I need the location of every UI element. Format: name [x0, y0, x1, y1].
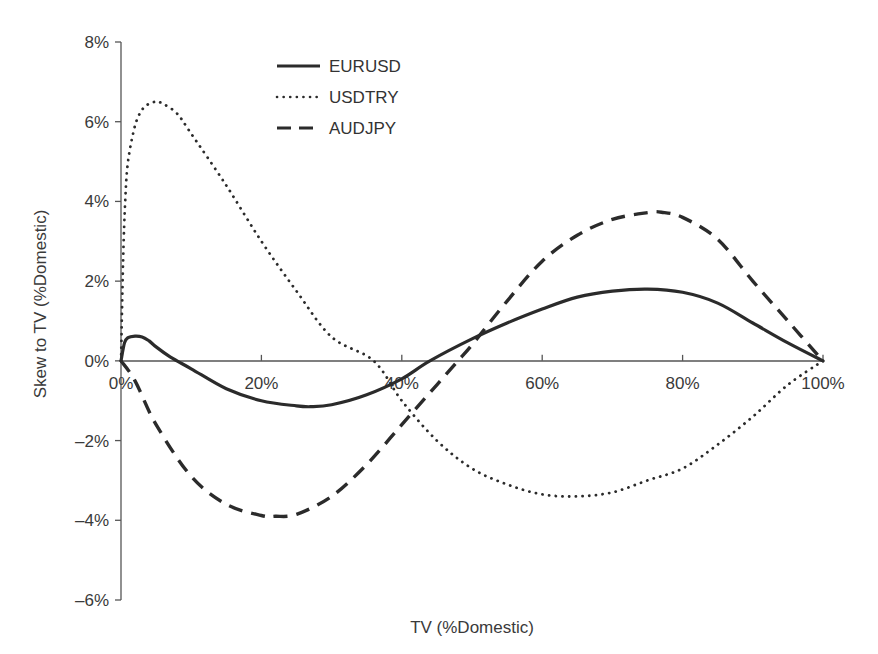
- x-tick-label: 60%: [525, 374, 559, 393]
- axes: [121, 42, 823, 600]
- legend-item-eurusd: EURUSD: [277, 57, 401, 76]
- x-tick-label: 0%: [109, 374, 134, 393]
- legend-item-audjpy: AUDJPY: [277, 119, 396, 138]
- y-tick-label: –2%: [75, 432, 109, 451]
- legend-label: EURUSD: [329, 57, 401, 76]
- y-tick-label: 0%: [84, 352, 109, 371]
- series-line-usdtry: [121, 102, 823, 497]
- y-tick-label: 6%: [84, 113, 109, 132]
- legend: EURUSD USDTRY AUDJPY: [277, 57, 401, 138]
- legend-label: AUDJPY: [329, 119, 396, 138]
- y-tick-label: 4%: [84, 192, 109, 211]
- y-axis-title: Skew to TV (%Domestic): [31, 210, 50, 399]
- y-tick-label: –6%: [75, 591, 109, 610]
- x-axis-title: TV (%Domestic): [410, 618, 534, 637]
- series-lines: [121, 102, 823, 517]
- series-line-audjpy: [121, 212, 823, 517]
- legend-label: USDTRY: [329, 88, 399, 107]
- y-tick-label: 2%: [84, 272, 109, 291]
- chart-canvas: 8%6%4%2%0%–2%–4%–6% 0%20%40%60%80%100% E…: [0, 0, 878, 654]
- y-axis-ticks: 8%6%4%2%0%–2%–4%–6%: [75, 33, 121, 610]
- legend-item-usdtry: USDTRY: [277, 88, 399, 107]
- x-tick-label: 80%: [666, 374, 700, 393]
- y-tick-label: 8%: [84, 33, 109, 52]
- y-tick-label: –4%: [75, 511, 109, 530]
- series-line-eurusd: [121, 289, 823, 407]
- x-tick-label: 20%: [244, 374, 278, 393]
- x-tick-label: 100%: [801, 374, 844, 393]
